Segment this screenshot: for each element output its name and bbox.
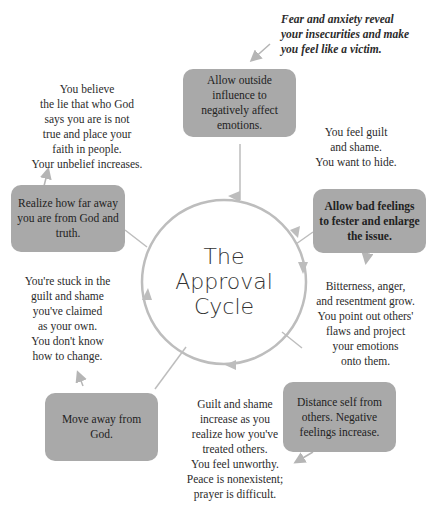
diagram-title: The Approval Cycle: [166, 244, 282, 319]
note-unbelief: You believe the lie that who God says yo…: [22, 82, 152, 172]
step-box-outside-influence: Allow outside influence to negatively af…: [183, 69, 296, 137]
intro-note: Fear and anxiety reveal your insecuritie…: [281, 12, 431, 57]
step-box-move-away: Move away from God.: [45, 393, 158, 461]
step-box-bad-feelings: Allow bad feelings to fester and enlarge…: [313, 189, 426, 253]
note-guilt-shame: You feel guilt and shame. You want to hi…: [296, 125, 416, 170]
note-guilt-increase: Guilt and shame increase as you realize …: [170, 397, 300, 502]
step-box-realize: Realize how far away you are from God an…: [11, 185, 125, 252]
note-bitterness: Bitterness, anger, and resentment grow. …: [303, 279, 428, 369]
note-stuck: You're stuck in the guilt and shame you'…: [10, 274, 125, 364]
